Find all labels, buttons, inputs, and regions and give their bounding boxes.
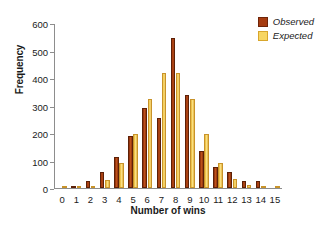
bar-expected-2[interactable] [91,186,96,188]
bar-expected-8[interactable] [176,73,181,188]
legend-item-expected[interactable]: Expected [258,30,314,41]
y-axis-tick-label: 600 [32,19,48,30]
x-axis-tick-label: 1 [74,194,79,205]
y-axis-tick-label: 100 [32,156,48,167]
y-axis-tick [50,24,54,25]
y-axis-tick [50,52,54,53]
bar-series-layer [55,24,282,188]
x-axis-tick-label: 9 [187,194,192,205]
y-axis-tick-label: 200 [32,129,48,140]
legend-item-observed[interactable]: Observed [258,16,314,27]
y-axis-tick-label: 0 [43,184,48,195]
bar-expected-5[interactable] [133,134,138,188]
y-axis-tick-label: 500 [32,46,48,57]
y-axis-tick-label: 300 [32,101,48,112]
legend-swatch-observed-icon [258,17,268,27]
bar-observed-2[interactable] [86,181,91,188]
x-axis-tick-label: 4 [116,194,121,205]
bar-expected-9[interactable] [190,99,195,188]
bar-expected-6[interactable] [148,99,153,188]
bar-observed-3[interactable] [100,172,105,188]
y-axis-tick [50,79,54,80]
x-axis-tick-label: 11 [213,194,223,205]
bar-observed-4[interactable] [114,157,119,188]
y-axis-tick-label: 400 [32,74,48,85]
bar-expected-11[interactable] [218,163,223,188]
y-axis-tick [50,162,54,163]
y-axis-tick [50,107,54,108]
plot-area: 0100200300400500600 01234567891011121314… [54,24,282,189]
bar-expected-3[interactable] [105,180,110,188]
y-axis-tick [50,134,54,135]
bar-expected-14[interactable] [261,186,266,188]
x-axis-title: Number of wins [54,205,282,216]
bar-observed-5[interactable] [128,136,133,188]
y-axis-title: Frequency [14,25,25,115]
x-axis-tick-label: 14 [255,194,266,205]
bar-expected-13[interactable] [247,185,252,188]
x-axis-tick-label: 6 [145,194,150,205]
bar-observed-10[interactable] [199,151,204,188]
chart-legend: Observed Expected [258,16,314,41]
x-axis-tick-label: 2 [88,194,93,205]
legend-label-expected: Expected [273,30,313,41]
legend-swatch-expected-icon [258,31,268,41]
bar-observed-12[interactable] [227,172,232,188]
bar-observed-14[interactable] [256,181,261,188]
x-axis-tick-label: 12 [227,194,238,205]
x-axis-tick-label: 8 [173,194,178,205]
x-axis-tick-label: 10 [199,194,210,205]
bar-observed-1[interactable] [71,186,76,188]
x-axis-tick-label: 15 [270,194,281,205]
x-axis-tick-label: 0 [59,194,64,205]
x-axis-tick-label: 3 [102,194,107,205]
bar-observed-9[interactable] [185,95,190,188]
bar-expected-10[interactable] [204,134,209,188]
bar-observed-13[interactable] [242,181,247,188]
legend-label-observed: Observed [273,16,314,27]
x-axis-tick-label: 13 [241,194,252,205]
bar-observed-7[interactable] [157,118,162,188]
y-axis-tick [50,189,54,190]
x-axis-line [54,188,282,189]
bar-expected-15[interactable] [275,186,280,188]
bar-expected-7[interactable] [162,73,167,188]
bar-expected-4[interactable] [119,163,124,188]
x-axis-tick-label: 7 [159,194,164,205]
bar-expected-0[interactable] [62,186,67,188]
bar-expected-12[interactable] [233,179,238,188]
chart-figure: Frequency 0100200300400500600 0123456789… [0,0,320,229]
x-axis-tick-label: 5 [130,194,135,205]
bar-observed-11[interactable] [213,167,218,188]
bar-observed-8[interactable] [171,38,176,188]
bar-observed-6[interactable] [142,108,147,188]
bar-expected-1[interactable] [77,186,82,188]
